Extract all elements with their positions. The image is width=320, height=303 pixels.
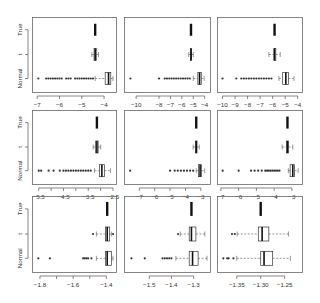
x-tick-label: −10 (131, 101, 142, 108)
outlier-point (270, 77, 272, 79)
panel-r3c1: −1.8−1.6−1.4NormaltTrue (16, 197, 117, 289)
outlier-point (87, 170, 89, 172)
panel-r2c2: −7−6−5−4−3 (125, 111, 211, 201)
panel-r2c1: −5.5−4.5−3.5−2.5NormaltTrue (16, 111, 120, 201)
boxplot-grid: −7−6−5−4NormaltTrue−10−8−7−6−5−4−10−9−8−… (0, 0, 320, 303)
outlier-point (177, 77, 179, 79)
outlier-point (70, 170, 72, 172)
box-t (92, 49, 99, 61)
outlier-point (184, 77, 186, 79)
x-tick-label: −7 (167, 101, 175, 108)
outlier-point (254, 170, 256, 172)
outlier-point (129, 170, 131, 172)
box-t (193, 141, 199, 153)
outlier-point (67, 170, 69, 172)
outlier-point (129, 77, 131, 79)
outlier-point (174, 170, 176, 172)
outlier-point (175, 77, 177, 79)
y-tick-label: Normal (16, 161, 23, 181)
outlier-point (186, 77, 188, 79)
x-tick-label: −6 (178, 101, 186, 108)
outlier-point (65, 170, 67, 172)
outlier-point (255, 77, 257, 79)
outlier-point (268, 77, 270, 79)
x-tick-label: −7 (257, 101, 265, 108)
outlier-point (168, 77, 170, 79)
panel-r3c3: −1.35−1.30−1.25 (218, 197, 303, 289)
outlier-point (238, 170, 240, 172)
outlier-point (77, 170, 79, 172)
outlier-point (54, 77, 56, 79)
panel-r1c2: −10−8−7−6−5−4 (125, 18, 211, 109)
x-tick-label: −4 (294, 101, 302, 108)
box-t (282, 141, 293, 153)
outlier-point (173, 77, 175, 79)
x-tick-label: −1.8 (34, 281, 47, 288)
box-t (189, 49, 194, 61)
outlier-point (52, 77, 54, 79)
outlier-point (144, 257, 146, 259)
x-tick-label: −6 (56, 101, 64, 108)
outlier-point (56, 77, 58, 79)
outlier-point (78, 77, 80, 79)
outlier-point (47, 77, 49, 79)
outlier-point (180, 170, 182, 172)
outlier-point (222, 257, 224, 259)
outlier-point (37, 77, 39, 79)
outlier-point (168, 257, 170, 259)
y-tick-label: True (16, 202, 23, 215)
y-tick-label: True (16, 23, 23, 36)
panel-frame (218, 18, 303, 93)
panel-frame (125, 111, 211, 185)
outlier-point (80, 170, 82, 172)
box-normal (130, 251, 207, 265)
panel-r2c3: −7−6−5−4−3 (217, 111, 302, 201)
outlier-point (231, 233, 233, 235)
x-tick-label: −1.4 (165, 281, 178, 288)
x-tick-label: −5 (190, 101, 198, 108)
x-tick-label: −5 (282, 101, 290, 108)
outlier-point (183, 170, 185, 172)
outlier-point (253, 77, 255, 79)
outlier-point (257, 170, 259, 172)
x-tick-label: −6 (269, 101, 277, 108)
outlier-point (261, 170, 263, 172)
outlier-point (65, 77, 67, 79)
outlier-point (45, 77, 47, 79)
outlier-point (87, 257, 89, 259)
outlier-point (180, 77, 182, 79)
outlier-point (67, 77, 69, 79)
outlier-point (112, 233, 114, 235)
outlier-point (177, 233, 179, 235)
outlier-point (87, 77, 89, 79)
outlier-point (74, 77, 76, 79)
panel-r3c2: −1.5−1.4−1.3 (125, 197, 211, 289)
x-tick-label: −1.35 (229, 281, 245, 288)
outlier-point (92, 77, 94, 79)
x-tick-label: −4 (201, 101, 209, 108)
box-normal (38, 165, 111, 177)
x-tick-label: −1.3 (188, 281, 201, 288)
box-normal (37, 251, 113, 265)
outlier-point (90, 170, 92, 172)
x-tick-label: −9 (232, 101, 240, 108)
y-tick-label: True (16, 116, 23, 129)
box-normal (129, 165, 205, 177)
outlier-point (260, 77, 262, 79)
outlier-point (161, 257, 163, 259)
outlier-point (248, 77, 250, 79)
outlier-point (52, 170, 54, 172)
outlier-point (189, 77, 191, 79)
panel-r1c3: −10−9−8−7−6−5−4 (217, 18, 302, 109)
box-normal (129, 73, 204, 85)
outlier-point (85, 77, 87, 79)
outlier-point (265, 77, 267, 79)
outlier-point (232, 257, 234, 259)
outlier-point (75, 170, 77, 172)
x-tick-label: −10 (217, 101, 228, 108)
outlier-point (177, 170, 179, 172)
outlier-point (169, 170, 171, 172)
box-t (269, 49, 280, 61)
outlier-point (58, 77, 60, 79)
outlier-point (82, 170, 84, 172)
